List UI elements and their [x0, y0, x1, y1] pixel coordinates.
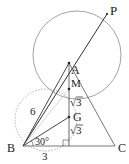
point-M	[68, 88, 71, 91]
label-side-3: 3	[42, 150, 48, 162]
right-angle-mark	[63, 140, 69, 146]
label-B: B	[7, 141, 15, 155]
label-C: C	[118, 141, 126, 155]
label-angle-30: 30°	[35, 136, 49, 147]
label-sqrt3-GH: √ 3	[70, 124, 83, 136]
label-side-6: 6	[30, 105, 36, 117]
label-M: M	[71, 77, 81, 89]
point-P	[106, 13, 108, 15]
point-G	[68, 116, 71, 119]
label-A: A	[71, 63, 80, 77]
label-G: G	[73, 110, 82, 124]
svg-text:3: 3	[76, 96, 82, 108]
angle-arc	[32, 141, 34, 146]
point-A	[68, 62, 71, 65]
geometry-diagram: P A M G B C 6 3 30° √ 3 √ 3	[0, 0, 129, 164]
label-P: P	[110, 3, 117, 18]
line-BP	[23, 14, 107, 146]
svg-text:3: 3	[76, 124, 82, 136]
label-sqrt3-MG: √ 3	[70, 96, 83, 108]
